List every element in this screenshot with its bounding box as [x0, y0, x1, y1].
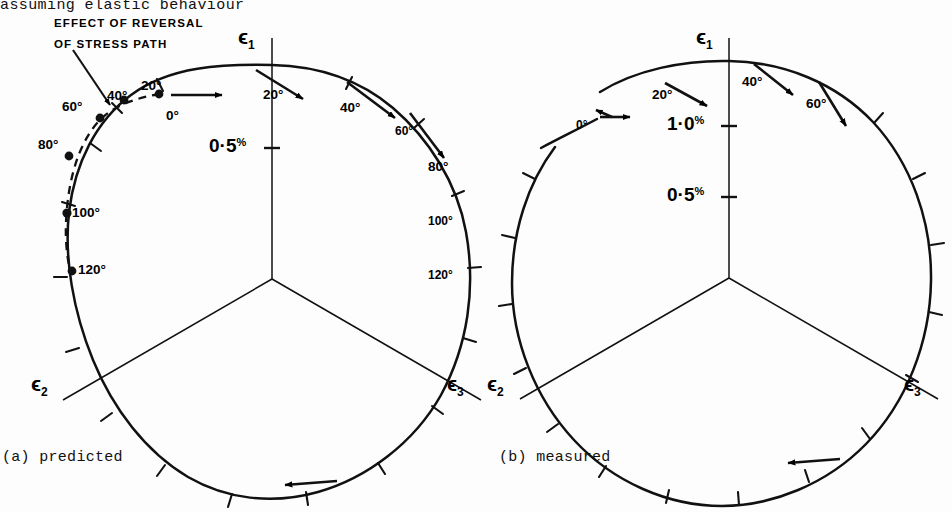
panel-b-axis-label-eps1: ϵ1: [696, 25, 713, 52]
panel-a-angle-label-40-right: 40°: [340, 100, 360, 115]
panel-b-axis-label-eps3: ϵ3: [904, 372, 921, 399]
panel-b-direction-arrows: [596, 64, 846, 463]
panel-b-perimeter-ticks: [499, 113, 944, 505]
figure-canvas: [0, 0, 952, 512]
panel-b-angle-label-0: 0°: [576, 118, 587, 132]
panel-a-reversal-path: [66, 94, 160, 270]
panel-a-angle-label-60-right: 60°: [395, 124, 413, 138]
panel-a-angle-label-80-right: 80°: [428, 159, 448, 174]
panel-a-angle-label-100-right: 100°: [428, 214, 453, 228]
panel-b-angle-label-40: 40°: [742, 74, 762, 89]
panel-a-caption: (a) predicted: [2, 449, 123, 466]
figure-root: assuming elastic behaviour: [0, 0, 952, 512]
panel-b-envelope-gap-segment: [541, 119, 597, 148]
panel-a-reversal-markers: [62, 90, 163, 276]
panel-a-angle-label-60-left: 60°: [62, 99, 82, 114]
panel-a-axis-label-eps1: ϵ1: [238, 25, 255, 52]
panel-a-perimeter-ticks: [54, 77, 481, 507]
panel-a-annotation-line1: EFFECT OF REVERSAL: [54, 17, 204, 29]
panel-a-axis-eps2: [63, 279, 272, 400]
panel-b-angle-label-20: 20°: [652, 87, 672, 102]
panel-a-axis-label-eps3: ϵ3: [447, 372, 464, 399]
panel-b-graphics: [499, 38, 944, 506]
panel-a-annotation-leader: [73, 50, 110, 105]
panel-a-angle-label-0: 0°: [166, 108, 179, 123]
panel-b-axis-eps2: [520, 278, 729, 399]
panel-a-angle-label-20-right: 20°: [263, 87, 283, 102]
panel-a-angle-label-120-left: 120°: [78, 262, 106, 277]
panel-a-angle-label-120-right: 120°: [428, 268, 453, 282]
panel-a-annotation-line2: OF STRESS PATH: [54, 38, 167, 50]
panel-b-scale-label-10: 1·0%: [667, 113, 704, 135]
panel-a-graphics: [54, 38, 481, 507]
panel-b-axis-label-eps2: ϵ2: [487, 372, 504, 399]
panel-b-envelope: [512, 61, 931, 506]
panel-a-axis-label-eps2: ϵ2: [31, 372, 48, 399]
panel-a-angle-label-100-left: 100°: [72, 205, 100, 220]
panel-b-angle-label-60: 60°: [806, 96, 826, 111]
panel-b-scale-label-05: 0·5%: [667, 184, 704, 206]
panel-a-angle-label-80-left: 80°: [38, 137, 58, 152]
panel-a-angle-label-20-left: 20°: [141, 78, 161, 93]
panel-a-angle-label-40-left: 40°: [107, 88, 127, 103]
panel-b-caption: (b) measured: [499, 449, 611, 466]
panel-a-scale-label-05: 0·5%: [209, 135, 246, 157]
